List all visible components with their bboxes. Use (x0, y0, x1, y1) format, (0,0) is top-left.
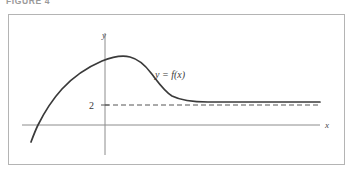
x-axis-label: x (324, 120, 329, 130)
curve-equation-label: y = f(x) (154, 69, 186, 81)
figure-page: FIGURE 4 y x 2 y = f(x) (0, 0, 356, 175)
y-tick-label-2: 2 (89, 100, 94, 111)
plot-area: y x 2 y = f(x) (0, 0, 356, 175)
y-axis-label: y (101, 30, 106, 40)
